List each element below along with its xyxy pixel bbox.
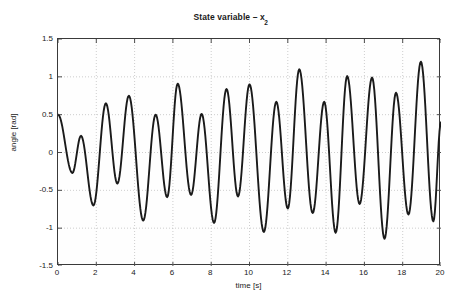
x-tick-label: 4 bbox=[119, 268, 149, 277]
y-axis-label: angle [rad] bbox=[9, 98, 18, 168]
x-tick-label: 20 bbox=[425, 268, 455, 277]
plot-area bbox=[57, 38, 440, 265]
chart-title-subscript: 2 bbox=[264, 19, 268, 26]
x-tick-label: 2 bbox=[80, 268, 110, 277]
x-tick-label: 12 bbox=[272, 268, 302, 277]
x-tick-label: 8 bbox=[195, 268, 225, 277]
tick-marks bbox=[58, 39, 441, 266]
x-tick-label: 0 bbox=[42, 268, 72, 277]
figure-canvas: State variable – x2 1.510.50-0.5-1-1.5 t… bbox=[0, 0, 462, 305]
x-tick-label: 10 bbox=[234, 268, 264, 277]
x-tick-label: 14 bbox=[310, 268, 340, 277]
chart-title-text: State variable – x bbox=[194, 12, 265, 22]
x-tick-label: 6 bbox=[157, 268, 187, 277]
chart-title: State variable – x2 bbox=[0, 12, 462, 24]
x-axis-label: time [s] bbox=[57, 281, 440, 290]
y-tick-label: 1 bbox=[7, 71, 57, 80]
y-tick-label: -0.5 bbox=[7, 185, 57, 194]
y-tick-label: 1.5 bbox=[7, 34, 57, 43]
x-tick-label: 18 bbox=[387, 268, 417, 277]
y-tick-label: -1 bbox=[7, 223, 57, 232]
x-tick-label: 16 bbox=[348, 268, 378, 277]
